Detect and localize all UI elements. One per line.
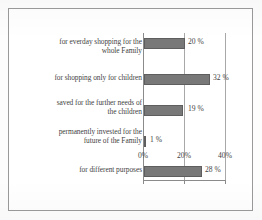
bar-4 <box>144 166 202 177</box>
category-label-2-line-1: the children <box>24 108 142 117</box>
category-label-4: for different purposes <box>24 166 142 175</box>
category-label-1: for shopping only for children <box>24 74 142 83</box>
x-tick-label-0: 0% <box>128 151 158 160</box>
x-tick-0 <box>143 181 144 184</box>
category-label-0-line-1: whole Family <box>24 47 142 56</box>
category-label-3-line-1: future of the Family <box>24 137 142 146</box>
x-tick-40 <box>225 181 226 184</box>
category-label-4-line-0: for different purposes <box>24 166 142 175</box>
x-tick-20 <box>184 181 185 184</box>
bar-value-3: 1 % <box>150 135 162 144</box>
bar-value-0: 20 % <box>188 37 204 46</box>
x-tick-label-40: 40% <box>210 151 240 160</box>
bar-value-4: 28 % <box>205 165 221 174</box>
category-label-0: for everday shopping for the whole Famil… <box>24 38 142 55</box>
horizontal-bar-chart: for everday shopping for the whole Famil… <box>0 0 262 220</box>
bar-3 <box>144 136 146 147</box>
bar-1 <box>144 74 210 85</box>
chart-page: for everday shopping for the whole Famil… <box>0 0 262 220</box>
category-label-3: permanently invested for the future of t… <box>24 128 142 145</box>
bar-2 <box>144 105 183 116</box>
category-label-2: saved for the further needs of the child… <box>24 99 142 116</box>
bar-0 <box>144 38 185 49</box>
bar-value-1: 32 % <box>213 73 229 82</box>
bar-value-2: 19 % <box>188 104 204 113</box>
x-tick-label-20: 20% <box>169 151 199 160</box>
category-label-1-line-0: for shopping only for children <box>24 74 142 83</box>
